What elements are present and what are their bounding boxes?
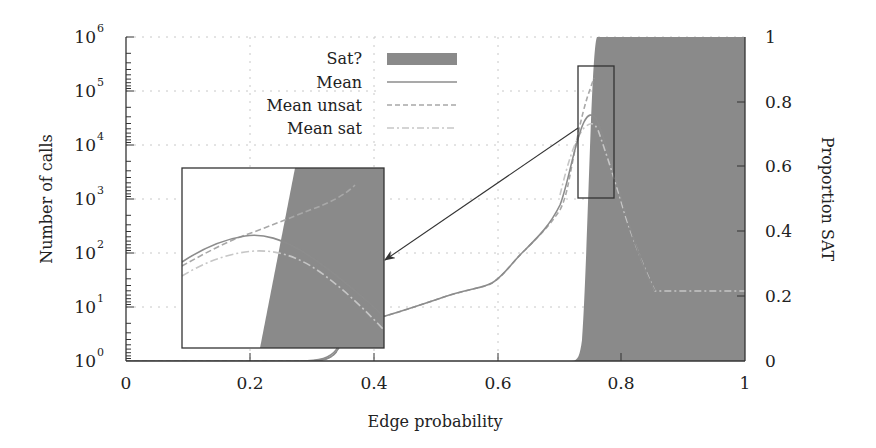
svg-text:10: 10 bbox=[74, 243, 96, 263]
y-left-axis-title: Number of calls bbox=[37, 134, 56, 264]
x-tick-label: 0.2 bbox=[236, 373, 263, 393]
x-tick-label: 0.4 bbox=[360, 373, 387, 393]
svg-text:10: 10 bbox=[74, 297, 96, 317]
y-right-tick-label: 1 bbox=[765, 27, 776, 47]
svg-text:10: 10 bbox=[74, 189, 96, 209]
inset bbox=[182, 168, 384, 348]
bottom-axis-ticks bbox=[250, 353, 621, 361]
svg-text:10: 10 bbox=[74, 27, 96, 47]
svg-text:10: 10 bbox=[74, 135, 96, 155]
svg-text:10: 10 bbox=[74, 351, 96, 371]
legend-label-mean-unsat: Mean unsat bbox=[266, 96, 362, 115]
svg-text:1: 1 bbox=[97, 292, 104, 305]
svg-text:6: 6 bbox=[97, 22, 104, 35]
svg-text:4: 4 bbox=[97, 130, 104, 143]
x-tick-label: 0.6 bbox=[484, 373, 511, 393]
y-right-axis-title: Proportion SAT bbox=[818, 137, 837, 262]
svg-text:3: 3 bbox=[97, 184, 104, 197]
left-axis-ticks bbox=[126, 37, 134, 359]
y-left-tick-labels: 10 0 10 1 10 2 10 3 10 4 10 5 10 6 bbox=[74, 22, 104, 371]
y-right-tick-label: 0.8 bbox=[765, 92, 792, 112]
legend-label-sat: Sat? bbox=[326, 49, 362, 68]
y-right-tick-labels: 0 0.2 0.4 0.6 0.8 1 bbox=[765, 27, 792, 371]
svg-text:10: 10 bbox=[74, 81, 96, 101]
svg-text:0: 0 bbox=[97, 346, 104, 359]
y-right-tick-label: 0 bbox=[765, 351, 776, 371]
y-right-tick-label: 0.6 bbox=[765, 156, 792, 176]
y-right-tick-label: 0.4 bbox=[765, 221, 792, 241]
zoom-arrow bbox=[385, 128, 578, 260]
x-axis-title: Edge probability bbox=[367, 412, 502, 431]
svg-text:2: 2 bbox=[97, 238, 104, 251]
legend-label-mean: Mean bbox=[316, 73, 362, 92]
legend-label-mean-sat: Mean sat bbox=[287, 119, 363, 138]
chart: 0 0.2 0.4 0.6 0.8 1 10 0 10 1 10 2 10 3 … bbox=[0, 0, 876, 448]
sat-area bbox=[572, 37, 745, 361]
legend: Sat? Mean Mean unsat Mean sat bbox=[266, 46, 496, 142]
y-right-tick-label: 0.2 bbox=[765, 286, 792, 306]
x-tick-label: 0.8 bbox=[607, 373, 634, 393]
svg-text:5: 5 bbox=[97, 76, 104, 89]
x-tick-label: 1 bbox=[740, 373, 751, 393]
legend-swatch-sat bbox=[387, 53, 457, 65]
x-tick-label: 0 bbox=[121, 373, 132, 393]
x-tick-labels: 0 0.2 0.4 0.6 0.8 1 bbox=[121, 373, 751, 393]
